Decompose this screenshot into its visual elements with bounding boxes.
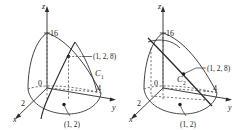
x-axis-right	[131, 88, 163, 119]
curve-subscript-c1: 1	[101, 74, 104, 80]
x-tick-2-right: 2	[137, 99, 141, 108]
point-plane-label-left: (1, 2)	[64, 120, 80, 129]
z-axis-label-right: z	[157, 2, 162, 11]
paraboloid-right-edge-left	[47, 33, 101, 93]
x-tick-2-left: 2	[21, 99, 25, 108]
curve-subscript-c2: 2	[183, 80, 186, 86]
point-plane-label-right: (1, 2)	[180, 120, 196, 129]
figure-container: z y x 0 16 2 4	[0, 0, 240, 130]
x-axis-label-right: x	[128, 115, 133, 124]
curve-c2	[148, 38, 212, 106]
x-axis-label-left: x	[12, 115, 17, 124]
figure-svg: z y x 0 16 2 4	[0, 0, 240, 130]
right-panel: z y x 0 16 2 4	[128, 2, 232, 129]
z-tick-16-left: 16	[50, 29, 58, 38]
y-axis-label-left: y	[111, 103, 116, 112]
slice-arc-top-right	[148, 40, 180, 48]
point-space-label-left: (1, 2, 8)	[93, 52, 117, 61]
point-space-label-right: (1, 2, 8)	[207, 64, 231, 73]
base-radial-dashed2-right	[151, 96, 205, 100]
curve-c1	[41, 42, 75, 119]
base-curve-front-right	[144, 89, 217, 114]
z-tick-16-right: 16	[166, 29, 174, 38]
point-leader-line-right	[184, 68, 197, 74]
y-axis-label-right: y	[227, 103, 232, 112]
base-curve-front-left	[28, 89, 101, 114]
base-radial-dashed-right	[163, 88, 217, 92]
base-radial-dashed-left	[47, 88, 97, 92]
left-panel: z y x 0 16 2 4	[12, 2, 117, 129]
z-axis-label-left: z	[41, 2, 46, 11]
y-axis-left	[47, 88, 116, 102]
